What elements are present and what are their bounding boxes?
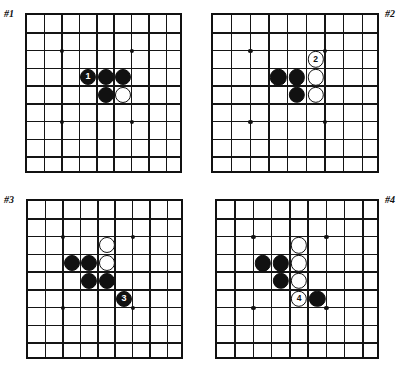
grid-line-vertical [307,201,309,357]
grid-line-vertical [344,201,346,357]
grid-line-horizontal [217,325,377,327]
grid-line-vertical [362,201,364,357]
grid-line-horizontal [217,218,377,220]
grid-line-vertical [234,201,236,357]
star-point [251,234,255,238]
star-point [324,234,328,238]
star-point [251,306,255,310]
panel-4: #44 [0,0,412,375]
grid-line-horizontal [217,307,377,309]
grid-line-horizontal [217,342,377,344]
panel-4-label: #4 [385,194,395,205]
figure-sheet: #11#22#33#44 [0,0,412,375]
star-point [324,306,328,310]
panel-4-board[interactable]: 4 [215,199,379,359]
grid-line-vertical [326,201,328,357]
grid-line-vertical [253,201,255,357]
move-number: 4 [297,294,302,303]
